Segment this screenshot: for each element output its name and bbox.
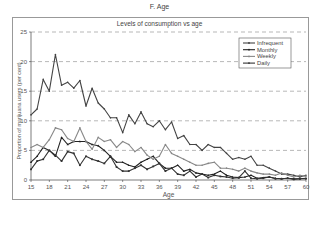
data-marker [140,164,142,166]
data-marker [183,135,185,137]
data-marker [116,166,118,168]
data-marker [226,167,228,169]
data-marker [195,176,197,178]
data-marker [201,173,203,175]
data-marker [262,164,264,166]
data-marker [97,102,99,104]
data-marker [122,132,124,134]
data-marker [220,167,222,169]
data-marker [226,176,228,178]
data-marker [42,79,44,81]
data-marker [152,126,154,128]
data-marker [238,177,240,179]
data-marker [49,139,51,141]
data-marker [275,174,277,176]
data-marker [97,160,99,162]
data-marker [159,156,161,158]
data-marker [48,150,50,152]
data-marker [128,114,130,116]
data-marker [293,176,295,178]
legend-marker [248,49,250,51]
data-marker [238,170,240,172]
data-marker [73,87,75,89]
data-marker [281,172,283,174]
data-marker [171,153,173,155]
data-marker [177,156,179,158]
data-marker [122,141,124,143]
data-marker [281,178,283,180]
data-marker [128,170,130,172]
data-marker [85,105,87,107]
data-marker [232,158,234,160]
data-marker [158,163,160,165]
x-axis-label: Age [163,191,175,199]
legend-label-monthly: Monthly [257,47,277,53]
data-marker [42,147,44,149]
series-line-monthly [31,137,306,178]
y-axis-label: Proportion of marijuana users (per cent) [16,62,22,159]
data-marker [165,144,167,146]
data-marker [244,170,246,172]
data-marker [226,153,228,155]
data-marker [122,170,124,172]
data-marker [177,173,179,175]
data-marker [232,177,234,179]
data-marker [207,144,209,146]
y-tick-label: 25 [20,29,27,35]
x-tick-label: 21 [64,184,71,190]
data-marker [189,161,191,163]
data-marker [36,108,38,110]
x-tick-label: 60 [303,184,310,190]
data-marker [183,174,185,176]
data-marker [238,157,240,159]
data-marker [36,160,38,162]
data-marker [287,174,289,176]
data-marker [189,170,191,172]
x-tick-label: 48 [229,184,236,190]
data-marker [73,141,75,143]
data-marker [134,123,136,125]
x-tick-label: 51 [248,184,255,190]
data-marker [250,170,252,172]
x-tick-label: 54 [266,184,273,190]
data-marker [232,169,234,171]
data-marker [250,156,252,158]
data-marker [220,147,222,149]
data-marker [299,174,301,176]
data-marker [79,127,81,129]
x-tick-label: 39 [174,184,181,190]
series-line-infrequent [31,55,306,178]
y-tick-label: 0 [24,177,28,183]
legend-marker [248,42,250,44]
data-marker [214,161,216,163]
data-marker [165,170,167,172]
data-marker [152,165,154,167]
data-marker [110,139,112,141]
data-marker [299,176,301,178]
data-marker [134,167,136,169]
x-tick-label: 15 [28,184,35,190]
data-marker [207,163,209,165]
data-marker [214,147,216,149]
data-marker [250,177,252,179]
data-marker [67,138,69,140]
data-marker [201,164,203,166]
series-line-daily [31,150,306,179]
data-marker [299,178,301,180]
data-marker [177,138,179,140]
x-tick-label: 27 [101,184,108,190]
data-marker [55,127,57,129]
data-marker [159,120,161,122]
legend-marker [248,56,250,58]
x-tick-label: 33 [138,184,145,190]
data-marker [61,129,63,131]
data-marker [30,168,32,170]
data-marker [293,174,295,176]
data-marker [287,177,289,179]
data-marker [275,178,277,180]
data-marker [91,148,93,150]
data-marker [146,154,148,156]
data-marker [293,179,295,181]
data-marker [256,164,258,166]
data-marker [91,158,93,160]
